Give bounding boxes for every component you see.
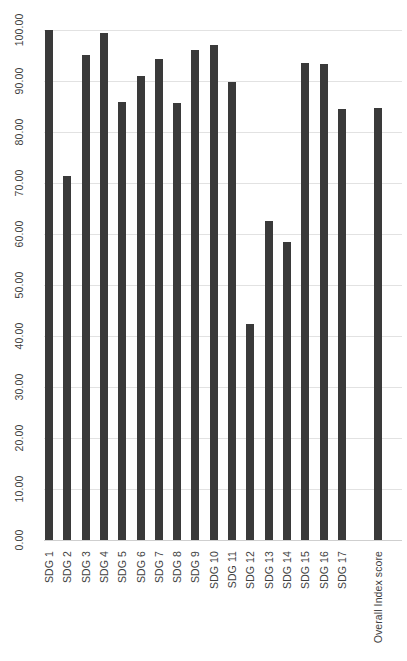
x-axis-tick-text: SDG 11: [226, 551, 238, 588]
bar: [210, 45, 218, 540]
bar: [137, 76, 145, 540]
x-axis-tick-text: SDG 9: [189, 551, 201, 583]
x-axis-tick-text: SDG 15: [299, 551, 311, 589]
y-axis-tick-label: 60.00: [0, 227, 38, 241]
y-axis-tick-text: 90.00: [13, 68, 25, 95]
y-axis-tick-text: 30.00: [13, 374, 25, 401]
plot-area: [44, 30, 402, 549]
x-axis-tick-text: SDG 2: [61, 551, 73, 583]
x-axis-tick-text: SDG 4: [98, 551, 110, 583]
gridline: [44, 234, 402, 235]
x-axis-tick-text: SDG 12: [244, 551, 256, 589]
bar-chart: SDG 1SDG 2SDG 3SDG 4SDG 5SDG 6SDG 7SDG 8…: [0, 0, 407, 661]
y-axis-tick-text: 100.00: [13, 14, 25, 47]
bar: [45, 30, 53, 540]
y-axis-tick-text: 40.00: [13, 323, 25, 350]
x-axis-tick-text: SDG 13: [263, 551, 275, 589]
x-axis-tick-label: SDG 2: [60, 551, 74, 655]
gridline: [44, 336, 402, 337]
y-axis-tick-label: 80.00: [0, 125, 38, 139]
x-axis-tick-label: Overall Index score: [371, 551, 385, 655]
bar: [173, 103, 181, 540]
bar: [82, 55, 90, 540]
bar: [338, 109, 346, 540]
x-axis-tick-text: SDG 16: [318, 551, 330, 589]
y-axis-tick-label: 100.00: [0, 23, 38, 37]
x-axis-tick-label: SDG 17: [335, 551, 349, 655]
bar: [63, 176, 71, 540]
gridline: [44, 132, 402, 133]
bar: [301, 63, 309, 540]
gridline: [44, 387, 402, 388]
y-axis-tick-text: 50.00: [13, 272, 25, 299]
x-axis-tick-label: SDG 15: [298, 551, 312, 655]
bar: [265, 221, 273, 540]
bar: [191, 50, 199, 540]
x-axis-tick-text: SDG 8: [171, 551, 183, 583]
y-axis-tick-text: 80.00: [13, 119, 25, 146]
x-axis-tick-label: SDG 3: [79, 551, 93, 655]
bar: [228, 82, 236, 540]
gridline: [44, 489, 402, 490]
bar: [118, 102, 126, 540]
x-axis-tick-label: SDG 7: [152, 551, 166, 655]
y-axis-tick-text: 20.00: [13, 425, 25, 452]
x-axis-tick-text: SDG 5: [116, 551, 128, 583]
gridline: [44, 438, 402, 439]
x-axis-tick-text: SDG 6: [135, 551, 147, 583]
gridline: [44, 81, 402, 82]
y-axis-tick-label: 30.00: [0, 380, 38, 394]
y-axis-tick-text: 0.00: [13, 530, 25, 551]
bar: [374, 108, 382, 541]
x-axis-tick-label: SDG 13: [262, 551, 276, 655]
x-axis-tick-label: SDG 8: [170, 551, 184, 655]
bar: [100, 33, 108, 540]
x-axis-tick-text: SDG 17: [336, 551, 348, 589]
bar: [283, 242, 291, 540]
x-axis-tick-label: SDG 10: [207, 551, 221, 655]
x-axis-tick-label: SDG 16: [317, 551, 331, 655]
x-axis: SDG 1SDG 2SDG 3SDG 4SDG 5SDG 6SDG 7SDG 8…: [44, 551, 402, 661]
bar: [246, 324, 254, 540]
x-axis-tick-text: SDG 10: [208, 551, 220, 589]
axis-baseline: [44, 540, 402, 541]
x-axis-tick-text: SDG 7: [153, 551, 165, 583]
y-axis-tick-text: 60.00: [13, 221, 25, 248]
x-axis-tick-label: SDG 5: [115, 551, 129, 655]
y-axis-tick-label: 50.00: [0, 278, 38, 292]
y-axis-tick-text: 70.00: [13, 170, 25, 197]
x-axis-tick-text: Overall Index score: [372, 551, 384, 643]
x-axis-tick-text: SDG 14: [281, 551, 293, 589]
gridline: [44, 285, 402, 286]
x-axis-tick-label: SDG 6: [134, 551, 148, 655]
y-axis-tick-label: 0.00: [0, 533, 38, 547]
x-axis-tick-label: SDG 14: [280, 551, 294, 655]
y-axis-tick-label: 10.00: [0, 482, 38, 496]
bar: [320, 64, 328, 540]
gridline: [44, 30, 402, 31]
x-axis-tick-label: SDG 11: [225, 551, 239, 655]
y-axis-tick-label: 70.00: [0, 176, 38, 190]
x-axis-tick-label: SDG 1: [42, 551, 56, 655]
x-axis-tick-text: SDG 3: [80, 551, 92, 583]
y-axis-tick-text: 10.00: [13, 476, 25, 503]
bar: [155, 59, 163, 540]
x-axis-tick-label: SDG 4: [97, 551, 111, 655]
x-axis-tick-label: SDG 9: [188, 551, 202, 655]
y-axis-tick-label: 90.00: [0, 74, 38, 88]
x-axis-tick-text: SDG 1: [43, 551, 55, 583]
x-axis-tick-label: SDG 12: [243, 551, 257, 655]
y-axis-tick-label: 40.00: [0, 329, 38, 343]
gridline: [44, 183, 402, 184]
y-axis-tick-label: 20.00: [0, 431, 38, 445]
